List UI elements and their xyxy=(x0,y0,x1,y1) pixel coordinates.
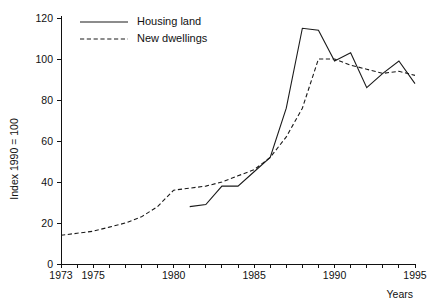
chart-container: 020406080100120 197319751980198519901995… xyxy=(0,0,438,307)
y-axis-tick-label: 40 xyxy=(41,176,53,188)
y-axis-tick-label: 120 xyxy=(35,12,53,24)
y-axis-tick-label: 60 xyxy=(41,135,53,147)
y-axis: 020406080100120 xyxy=(35,12,61,270)
x-axis-tick-label: 1980 xyxy=(162,269,186,281)
x-axis-tick-label: 1975 xyxy=(82,269,106,281)
x-axis: 197319751980198519901995 xyxy=(49,264,427,281)
y-axis-title: Index 1990 = 100 xyxy=(8,118,20,200)
x-axis-tick-label: 1973 xyxy=(49,269,73,281)
y-axis-tick-label: 80 xyxy=(41,94,53,106)
y-axis-tick-label: 100 xyxy=(35,53,53,65)
x-axis-tick-label: 1990 xyxy=(323,269,347,281)
x-axis-tick-label: 1985 xyxy=(242,269,266,281)
legend-label-1: Housing land xyxy=(137,15,201,27)
x-axis-tick-label: 1995 xyxy=(403,269,427,281)
x-axis-title: Years xyxy=(387,288,413,300)
series-layer xyxy=(61,28,415,235)
series-new-dwellings xyxy=(61,59,415,235)
y-axis-tick-label: 20 xyxy=(41,217,53,229)
chart-legend: Housing landNew dwellings xyxy=(80,15,208,44)
legend-label-2: New dwellings xyxy=(137,32,208,44)
series-housing-land xyxy=(190,28,415,206)
y-axis-tick-label: 0 xyxy=(47,258,53,270)
line-chart: 020406080100120 197319751980198519901995… xyxy=(0,0,438,307)
